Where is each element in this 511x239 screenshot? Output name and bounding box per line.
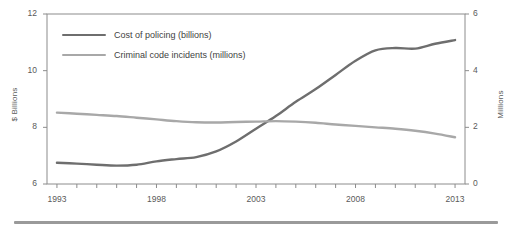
x-axis-tick-label: 1998 — [136, 194, 176, 204]
y-axis-right-tick-label: 0 — [473, 178, 495, 188]
legend-swatch-criminal-code-incidents — [62, 54, 106, 57]
y-axis-left-tick-label: 8 — [15, 121, 37, 131]
y-axis-right-tick-label: 4 — [473, 65, 495, 75]
legend-label-cost-of-policing: Cost of policing (billions) — [114, 30, 212, 40]
legend-label-criminal-code-incidents: Criminal code incidents (millions) — [114, 50, 246, 60]
x-axis-tick-label: 2008 — [336, 194, 376, 204]
y-axis-left-tick-label: 6 — [15, 178, 37, 188]
y-axis-left-tick-label: 10 — [15, 65, 37, 75]
y-axis-right-tick-label: 2 — [473, 121, 495, 131]
y-axis-left-tick-marks — [43, 14, 47, 184]
y-axis-right-tick-marks — [465, 14, 469, 184]
legend-item-criminal-code-incidents: Criminal code incidents (millions) — [62, 50, 246, 60]
series-line-criminal-code-incidents — [57, 113, 455, 138]
bottom-divider-rule — [14, 221, 498, 224]
legend-item-cost-of-policing: Cost of policing (billions) — [62, 30, 212, 40]
x-axis-tick-label: 2013 — [435, 194, 475, 204]
y-axis-left-tick-label: 12 — [15, 8, 37, 18]
x-axis-tick-label: 1993 — [37, 194, 77, 204]
x-axis-tick-label: 2003 — [236, 194, 276, 204]
chart-container: $ Billions Millions 681012 0246 19931998… — [0, 0, 511, 239]
y-axis-right-tick-label: 6 — [473, 8, 495, 18]
legend-swatch-cost-of-policing — [62, 34, 106, 37]
y-axis-right-title: Millions — [496, 75, 505, 135]
x-axis-tick-marks — [57, 184, 455, 188]
